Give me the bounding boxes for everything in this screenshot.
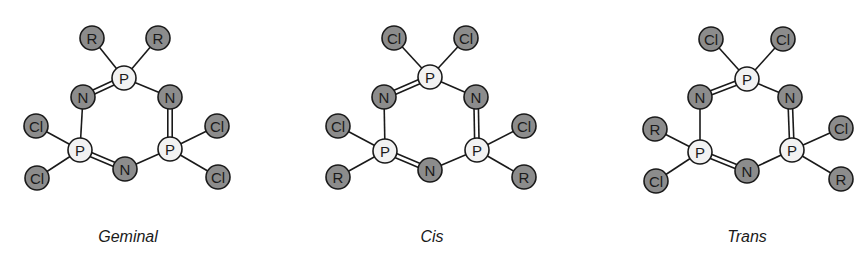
- chlorine-atom: Cl: [771, 27, 795, 51]
- chlorine-label: Cl: [834, 120, 848, 137]
- r-group-atom: R: [512, 165, 536, 189]
- phosphorus-atom: P: [465, 138, 489, 162]
- r-group-label: R: [333, 169, 344, 186]
- nitrogen-label: N: [379, 89, 390, 106]
- chlorine-atom: Cl: [24, 114, 48, 138]
- nitrogen-atom: N: [113, 157, 137, 181]
- phosphorus-atom: P: [112, 66, 136, 90]
- nitrogen-label: N: [742, 163, 753, 180]
- chlorine-atom: Cl: [829, 116, 853, 140]
- phosphorus-label: P: [472, 142, 482, 159]
- chlorine-label: Cl: [776, 31, 790, 48]
- nitrogen-label: N: [165, 89, 176, 106]
- chlorine-atom: Cl: [326, 114, 350, 138]
- nitrogen-atom: N: [372, 85, 396, 109]
- cis-caption: Cis: [420, 228, 443, 246]
- chlorine-atom: Cl: [512, 114, 536, 138]
- phosphorus-atom: P: [418, 65, 442, 89]
- phosphorus-atom: P: [688, 140, 712, 164]
- r-group-label: R: [836, 171, 847, 188]
- nitrogen-atom: N: [464, 85, 488, 109]
- nitrogen-label: N: [78, 89, 89, 106]
- nitrogen-atom: N: [778, 85, 802, 109]
- r-group-atom: R: [326, 165, 350, 189]
- nitrogen-label: N: [471, 89, 482, 106]
- phosphorus-label: P: [695, 144, 705, 161]
- chlorine-label: Cl: [517, 118, 531, 135]
- phosphazene-isomer-diagram: PNNPPNRRClClClCl PNNPPNClClClRClR PNNPPN…: [0, 0, 866, 259]
- chlorine-label: Cl: [331, 118, 345, 135]
- phosphorus-label: P: [119, 70, 129, 87]
- r-group-atom: R: [829, 167, 853, 191]
- geminal-caption: Geminal: [98, 228, 158, 246]
- phosphorus-label: P: [380, 143, 390, 160]
- phosphorus-label: P: [75, 142, 85, 159]
- r-group-label: R: [153, 30, 164, 47]
- trans-molecule: PNNPPNClClRClClR: [643, 27, 853, 193]
- chlorine-label: Cl: [210, 118, 224, 135]
- r-group-label: R: [650, 121, 661, 138]
- nitrogen-label: N: [425, 162, 436, 179]
- nitrogen-atom: N: [158, 85, 182, 109]
- r-group-label: R: [519, 169, 530, 186]
- chlorine-label: Cl: [211, 169, 225, 186]
- chlorine-label: Cl: [30, 170, 44, 187]
- phosphorus-atom: P: [158, 137, 182, 161]
- chlorine-atom: Cl: [25, 166, 49, 190]
- bonds: [338, 38, 524, 177]
- phosphorus-atom: P: [735, 67, 759, 91]
- trans-caption: Trans: [727, 228, 767, 246]
- phosphorus-label: P: [787, 142, 797, 159]
- chlorine-atom: Cl: [206, 165, 230, 189]
- phosphorus-label: P: [742, 71, 752, 88]
- nitrogen-atom: N: [418, 158, 442, 182]
- r-group-atom: R: [643, 117, 667, 141]
- chlorine-atom: Cl: [382, 26, 406, 50]
- r-group-atom: R: [146, 26, 170, 50]
- chlorine-label: Cl: [387, 30, 401, 47]
- r-group-label: R: [87, 30, 98, 47]
- chlorine-label: Cl: [29, 118, 43, 135]
- phosphorus-atom: P: [780, 138, 804, 162]
- cis-molecule: PNNPPNClClClRClR: [326, 26, 536, 189]
- chlorine-atom: Cl: [699, 27, 723, 51]
- nitrogen-label: N: [120, 161, 131, 178]
- chlorine-atom: Cl: [454, 26, 478, 50]
- chlorine-atom: Cl: [205, 114, 229, 138]
- chlorine-label: Cl: [704, 31, 718, 48]
- phosphorus-atom: P: [68, 138, 92, 162]
- r-group-atom: R: [80, 26, 104, 50]
- chlorine-label: Cl: [649, 173, 663, 190]
- nitrogen-atom: N: [71, 85, 95, 109]
- nitrogen-atom: N: [688, 85, 712, 109]
- nitrogen-label: N: [695, 89, 706, 106]
- phosphorus-label: P: [165, 141, 175, 158]
- chlorine-atom: Cl: [644, 169, 668, 193]
- nitrogen-label: N: [785, 89, 796, 106]
- nitrogen-atom: N: [735, 159, 759, 183]
- phosphorus-atom: P: [373, 139, 397, 163]
- chlorine-label: Cl: [459, 30, 473, 47]
- geminal-molecule: PNNPPNRRClClClCl: [24, 26, 230, 190]
- phosphorus-label: P: [425, 69, 435, 86]
